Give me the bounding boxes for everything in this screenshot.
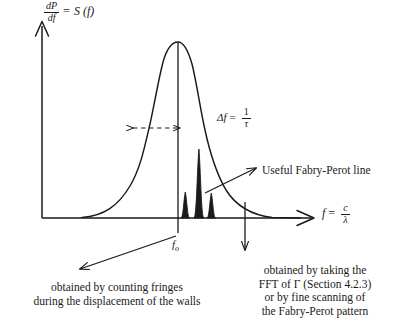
x-axis-denominator: λ (341, 215, 349, 226)
y-axis-denominator: df (44, 13, 59, 24)
caption-right-line-4: the Fabry-Perot pattern (234, 305, 396, 319)
caption-right: obtained by taking the FFT of Γ (Section… (234, 264, 396, 318)
lorentzian-envelope-curve (82, 42, 300, 218)
caption-right-line-1: obtained by taking the (234, 264, 396, 278)
y-axis-fraction: dP df (44, 1, 59, 23)
fabry-perot-callout-label: Useful Fabry-Perot line (262, 164, 371, 178)
linewidth-denominator: τ (242, 119, 251, 130)
caption-left: obtained by counting fringes during the … (8, 281, 226, 308)
x-axis-label: f= c λ (322, 203, 350, 225)
y-axis (36, 22, 49, 219)
caption-left-line-2: during the displacement of the walls (8, 295, 226, 309)
y-axis-numerator: dP (44, 1, 59, 13)
fabry-perot-spikes (181, 149, 216, 218)
y-axis-label: dP df =S (f) (44, 1, 94, 23)
caption-left-arrow (80, 236, 176, 269)
y-axis-equals: = (63, 4, 70, 18)
caption-right-line-2: FFT of Γ (Section 4.2.3) (234, 278, 396, 292)
linewidth-label: Δf= 1 τ (217, 107, 251, 129)
fabry-perot-callout-arrow (205, 168, 256, 193)
linewidth-fraction: 1 τ (242, 107, 251, 129)
y-axis-expression: S (f) (74, 4, 94, 18)
fo-subscript: o (175, 244, 179, 253)
linewidth-symbol: Δf (217, 111, 227, 123)
x-axis-fraction: c λ (341, 203, 349, 225)
x-axis-numerator: c (341, 203, 349, 215)
caption-left-line-1: obtained by counting fringes (8, 281, 226, 295)
x-axis-equals: = (328, 206, 335, 220)
linewidth-equals: = (230, 111, 236, 123)
caption-right-line-3: or by fine scanning of (234, 291, 396, 305)
linewidth-numerator: 1 (242, 107, 251, 119)
x-axis-tick-label-fo: fo (172, 238, 179, 254)
x-axis-symbol: f (322, 206, 325, 220)
